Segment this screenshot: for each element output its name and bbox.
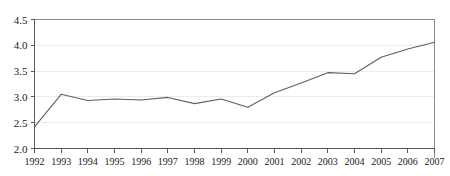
x-axis-tick-label: 1997 <box>158 156 178 167</box>
x-axis-tick-label: 1992 <box>25 156 45 167</box>
y-axis-labels-group: 2.02.53.03.54.04.5 <box>14 14 28 155</box>
y-axis-tick-label: 3.5 <box>14 65 28 77</box>
y-axis-tick-label: 2.5 <box>14 117 28 129</box>
y-axis-tick-label: 3.0 <box>14 91 28 103</box>
x-axis-tick-label: 1999 <box>211 156 231 167</box>
y-axis-tick-label: 4.0 <box>14 39 28 51</box>
gridlines-group <box>35 20 435 123</box>
line-chart: 2.02.53.03.54.04.5 199219931994199519961… <box>0 0 450 176</box>
chart-canvas: 2.02.53.03.54.04.5 199219931994199519961… <box>0 0 450 176</box>
series-line <box>35 42 435 127</box>
x-axis-tick-label: 2003 <box>318 156 338 167</box>
x-axis-labels-group: 1992199319941995199619971998199920002001… <box>25 156 445 167</box>
plot-frame <box>35 20 435 158</box>
x-axis-tick-label: 2000 <box>238 156 258 167</box>
x-axis-tick-label: 2006 <box>398 156 418 167</box>
x-axis-tick-label: 2005 <box>371 156 391 167</box>
x-axis-tick-label: 2004 <box>345 156 365 167</box>
x-axis-tick-label: 2007 <box>425 156 445 167</box>
x-axis-ticks-group <box>35 149 435 153</box>
x-axis-tick-label: 1993 <box>51 156 71 167</box>
x-axis-tick-label: 1995 <box>105 156 125 167</box>
y-axis-tick-label: 4.5 <box>14 14 28 26</box>
x-axis-tick-label: 1998 <box>185 156 205 167</box>
x-axis-tick-label: 1996 <box>131 156 151 167</box>
x-axis-tick-label: 2002 <box>291 156 311 167</box>
y-axis-ticks-group <box>31 20 35 149</box>
x-axis-tick-label: 1994 <box>78 156 98 167</box>
data-series-group <box>35 42 435 127</box>
x-axis-tick-label: 2001 <box>265 156 285 167</box>
y-axis-tick-label: 2.0 <box>14 143 28 155</box>
